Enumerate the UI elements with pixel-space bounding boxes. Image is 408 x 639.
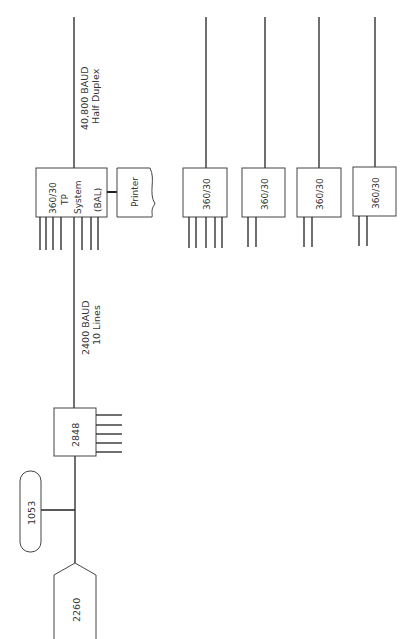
svg-text:Half Duplex: Half Duplex [90, 68, 101, 124]
downstream-link-label: 2400 BAUD 10 Lines [80, 301, 102, 355]
svg-text:40,800 BAUD: 40,800 BAUD [79, 66, 90, 130]
tp-system-stubs [40, 217, 98, 250]
printer-label: Printer [130, 177, 140, 207]
remote-system-3: 360/30 [297, 17, 341, 247]
remote-system-1: 360/30 [183, 17, 227, 248]
svg-text:10 Lines: 10 Lines [91, 305, 102, 345]
tp-system-label-2: TP [60, 194, 70, 206]
tp-system-label-3: System [73, 180, 83, 214]
remote-system-label: 360/30 [315, 178, 325, 210]
printer-box: Printer [117, 168, 155, 217]
terminal-label: 2260 [71, 598, 82, 622]
network-diagram: 40,800 BAUD Half Duplex 360/30 TP System… [0, 0, 408, 639]
remote-system-label: 360/30 [260, 178, 270, 210]
terminal-2260-shape: 2260 [54, 563, 96, 639]
console-1053-pill: 1053 [20, 471, 41, 552]
remote-system-4: 360/30 [353, 17, 396, 246]
remote-system-label: 360/30 [202, 178, 212, 210]
remote-system-label: 360/30 [371, 177, 381, 209]
svg-text:2400 BAUD: 2400 BAUD [80, 301, 91, 355]
console-label: 1053 [26, 501, 37, 525]
tp-system-box: 360/30 TP System (BAL) [36, 168, 107, 217]
upstream-link-label: 40,800 BAUD Half Duplex [79, 66, 101, 130]
remote-system-2: 360/30 [242, 17, 285, 247]
controller-2848-box: 2848 [54, 408, 122, 456]
tp-system-label-4: (BAL) [93, 188, 103, 212]
controller-label: 2848 [70, 423, 81, 447]
tp-system-label-1: 360/30 [48, 182, 58, 214]
